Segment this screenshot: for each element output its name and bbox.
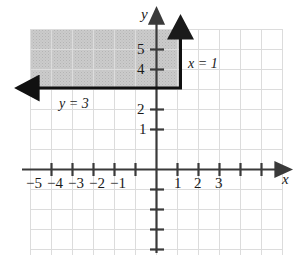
x-tick-label-neg4: −4 [47,176,63,191]
x-axis-label: x [282,172,289,187]
graph-canvas [0,0,299,273]
equation-label-y-equals-3: y = 3 [59,97,89,111]
y-tick-label-2: 2 [137,102,145,117]
x-tick-label-pos3: 3 [215,176,223,191]
x-tick-label-pos2: 2 [194,176,202,191]
coordinate-plane-figure: −5 −4 −3 −2 −1 1 2 3 5 4 2 1 y x x = 1 y… [0,0,299,273]
x-tick-label-neg2: −2 [89,176,105,191]
y-tick-label-5: 5 [137,42,145,57]
y-tick-label-1: 1 [139,122,147,137]
y-tick-label-4: 4 [137,62,145,77]
x-tick-label-neg3: −3 [68,176,84,191]
shaded-solution-region [30,29,182,87]
equation-label-x-equals-1: x = 1 [188,57,218,71]
x-tick-label-pos1: 1 [174,176,182,191]
y-axis-label: y [141,7,148,22]
x-tick-label-neg5: −5 [26,176,42,191]
x-tick-label-neg1: −1 [110,176,126,191]
